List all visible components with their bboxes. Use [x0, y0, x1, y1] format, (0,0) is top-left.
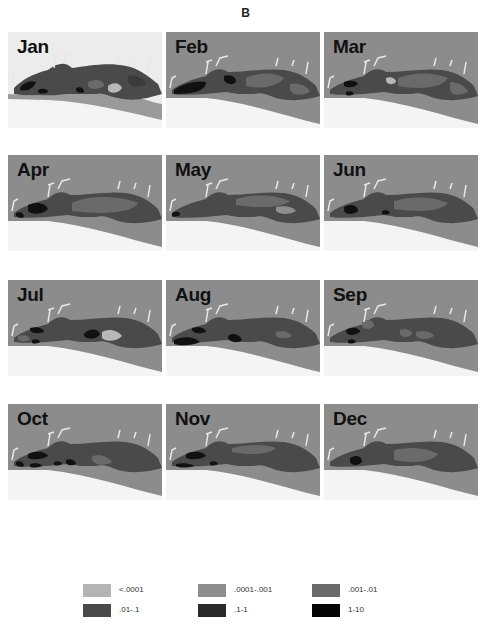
legend-label: .0001-.001: [234, 585, 272, 594]
month-label: Nov: [175, 408, 210, 430]
month-label: Jan: [17, 36, 49, 58]
legend-label: .01-.1: [119, 605, 139, 614]
legend-swatch: [83, 604, 111, 617]
map-panel-oct: Oct: [8, 404, 162, 500]
map-panel-apr: Apr: [8, 155, 162, 251]
month-label: Feb: [175, 36, 208, 58]
map-panel-jan: Jan: [8, 32, 162, 128]
map-panel-may: May: [166, 155, 320, 251]
legend-swatch: [198, 584, 226, 597]
legend-swatch: [83, 584, 111, 597]
legend-swatch: [312, 584, 340, 597]
map-panel-sep: Sep: [324, 280, 478, 376]
month-label: Apr: [17, 159, 49, 181]
map-panel-jul: Jul: [8, 280, 162, 376]
month-label: Mar: [333, 36, 366, 58]
map-panel-jun: Jun: [324, 155, 478, 251]
figure-label: B: [0, 6, 491, 20]
legend-swatch: [312, 604, 340, 617]
month-label: May: [175, 159, 211, 181]
map-panel-mar: Mar: [324, 32, 478, 128]
month-label: Jun: [333, 159, 366, 181]
month-label: Dec: [333, 408, 367, 430]
map-panel-dec: Dec: [324, 404, 478, 500]
legend-label: .001-.01: [348, 585, 377, 594]
legend-swatch: [198, 604, 226, 617]
legend-label: 1-10: [348, 605, 364, 614]
month-label: Aug: [175, 284, 211, 306]
map-panel-nov: Nov: [166, 404, 320, 500]
legend-label: <.0001: [119, 585, 144, 594]
map-panel-feb: Feb: [166, 32, 320, 128]
legend-label: .1-1: [234, 605, 248, 614]
month-label: Oct: [17, 408, 48, 430]
month-label: Sep: [333, 284, 367, 306]
month-label: Jul: [17, 284, 44, 306]
map-panel-aug: Aug: [166, 280, 320, 376]
